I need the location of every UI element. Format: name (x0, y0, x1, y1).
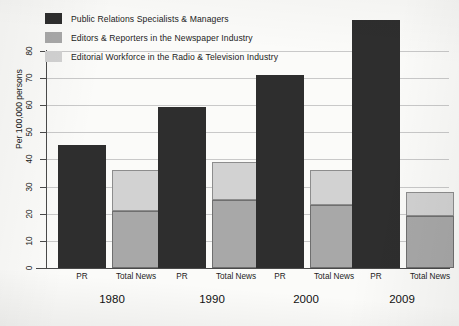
x-sublabel-1980-total-news: Total News (112, 272, 160, 281)
x-sublabel-1990-total-news: Total News (212, 272, 260, 281)
legend-swatch-newspaper (45, 32, 62, 43)
bar-segment-public-relations (58, 145, 106, 268)
y-tick-mark-0 (40, 268, 46, 269)
plot-area (46, 50, 449, 268)
y-tick-label-40: 40 (22, 152, 36, 166)
y-tick-label-50: 50 (22, 125, 36, 139)
y-tick-label-30: 30 (22, 180, 36, 194)
y-tick-mark-10 (40, 241, 46, 242)
bar-1990-pr (158, 107, 206, 268)
bar-segment-public-relations (158, 107, 206, 268)
bar-2009-total-news (406, 192, 454, 268)
y-tick-label-70: 70 (22, 71, 36, 85)
bar-segment-newspaper (406, 216, 454, 268)
bar-1980-total-news (112, 170, 160, 268)
x-group-label-1980: 1980 (62, 293, 162, 305)
bar-segment-newspaper (310, 205, 358, 268)
bar-1980-pr (58, 145, 106, 268)
bar-segment-radio-tv (112, 170, 160, 211)
y-tick-mark-20 (40, 214, 46, 215)
x-sublabel-1980-pr: PR (58, 272, 106, 281)
y-tick-label-0: 0 (22, 261, 36, 275)
chart-legend: Public Relations Specialists & Managers … (45, 9, 278, 66)
legend-swatch-public-relations (45, 13, 62, 24)
y-tick-label-10: 10 (22, 234, 36, 248)
y-tick-mark-60 (40, 105, 46, 106)
bar-segment-public-relations (352, 20, 400, 268)
legend-item-public-relations: Public Relations Specialists & Managers (45, 9, 278, 28)
legend-label-radio-tv: Editorial Workforce in the Radio & Telev… (71, 52, 278, 62)
legend-item-newspaper: Editors & Reporters in the Newspaper Ind… (45, 28, 278, 47)
bar-2000-total-news (310, 170, 358, 268)
y-tick-mark-40 (40, 159, 46, 160)
y-tick-mark-70 (40, 78, 46, 79)
x-sublabel-2009-total-news: Total News (406, 272, 454, 281)
bar-2009-pr (352, 20, 400, 268)
bar-segment-radio-tv (406, 192, 454, 216)
bar-1990-total-news (212, 162, 260, 268)
bar-segment-public-relations (256, 75, 304, 268)
bar-segment-radio-tv (310, 170, 358, 205)
bar-segment-newspaper (212, 200, 260, 268)
legend-swatch-radio-tv (45, 51, 62, 62)
y-tick-mark-30 (40, 187, 46, 188)
legend-label-public-relations: Public Relations Specialists & Managers (71, 14, 229, 24)
x-group-label-2000: 2000 (256, 293, 356, 305)
bar-segment-radio-tv (212, 162, 260, 200)
y-tick-label-60: 60 (22, 98, 36, 112)
y-tick-label-20: 20 (22, 207, 36, 221)
bar-segment-newspaper (112, 211, 160, 268)
x-axis-line (36, 268, 450, 269)
x-sublabel-2009-pr: PR (352, 272, 400, 281)
legend-label-newspaper: Editors & Reporters in the Newspaper Ind… (71, 33, 253, 43)
legend-item-radio-tv: Editorial Workforce in the Radio & Telev… (45, 47, 278, 66)
chart-page: Public Relations Specialists & Managers … (0, 0, 459, 326)
x-group-label-2009: 2009 (352, 293, 452, 305)
y-axis-line (46, 50, 47, 269)
y-tick-mark-50 (40, 132, 46, 133)
x-sublabel-1990-pr: PR (158, 272, 206, 281)
x-sublabel-2000-pr: PR (256, 272, 304, 281)
bar-2000-pr (256, 75, 304, 268)
y-tick-label-80: 80 (22, 44, 36, 58)
x-group-label-1990: 1990 (162, 293, 262, 305)
x-sublabel-2000-total-news: Total News (310, 272, 358, 281)
